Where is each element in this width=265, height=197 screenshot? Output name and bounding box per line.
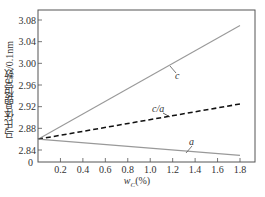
y-tick-label: 2.88 bbox=[19, 123, 37, 134]
y-tick-label: 3.04 bbox=[19, 36, 37, 47]
label-c: c bbox=[175, 70, 180, 81]
x-tick-label: 0.2 bbox=[54, 164, 67, 175]
x-tick-label: 1.2 bbox=[166, 164, 179, 175]
x-axis-ticks: 0.20.40.60.81.01.21.41.61.8 bbox=[54, 158, 246, 175]
y-tick-label: 2.96 bbox=[19, 80, 37, 91]
label-a: a bbox=[189, 136, 194, 147]
origin-label: 0 bbox=[28, 157, 33, 168]
series-lines bbox=[38, 25, 240, 155]
chart: 2.842.882.922.963.003.043.08 0.20.40.60.… bbox=[0, 0, 265, 197]
y-tick-label: 3.08 bbox=[19, 15, 37, 26]
x-axis-label: wC(%) bbox=[124, 175, 150, 189]
y-tick-label: 2.84 bbox=[19, 145, 37, 156]
series-line-a bbox=[38, 139, 240, 155]
series-line-c bbox=[38, 25, 240, 139]
x-tick-label: 0.4 bbox=[77, 164, 90, 175]
y-tick-label: 3.00 bbox=[19, 58, 37, 69]
x-tick-label: 0.6 bbox=[99, 164, 112, 175]
label-ca: c/a bbox=[152, 103, 164, 114]
x-tick-label: 1.8 bbox=[234, 164, 247, 175]
x-tick-label: 0.8 bbox=[122, 164, 135, 175]
x-tick-label: 1.0 bbox=[144, 164, 157, 175]
plot-frame bbox=[38, 10, 255, 162]
y-tick-label: 2.92 bbox=[19, 101, 37, 112]
x-tick-label: 1.4 bbox=[189, 164, 202, 175]
x-tick-label: 1.6 bbox=[211, 164, 224, 175]
